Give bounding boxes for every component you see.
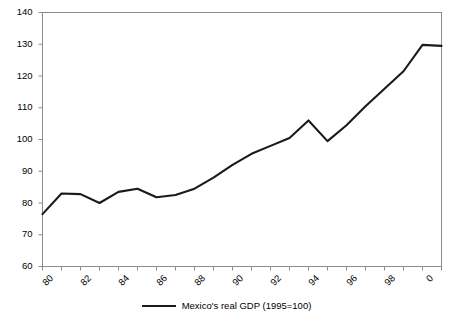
y-axis-tick-label: 140: [7, 7, 33, 17]
chart-container: 60708090100110120130140 8082848688909294…: [0, 0, 453, 330]
y-axis-tick-label: 100: [7, 134, 33, 144]
series-line: [43, 45, 442, 214]
chart-legend: Mexico's real GDP (1995=100): [0, 300, 453, 311]
y-axis-tick-label: 130: [7, 39, 33, 49]
y-axis-tick-label: 90: [7, 166, 33, 176]
legend-entry-label: Mexico's real GDP (1995=100): [182, 300, 312, 311]
plot-frame: [43, 13, 442, 267]
y-axis-tick-label: 120: [7, 71, 33, 81]
y-axis-tick-label: 70: [7, 229, 33, 239]
y-axis-tick-label: 60: [7, 261, 33, 271]
plot-border: [43, 13, 442, 267]
y-axis-tick-label: 110: [7, 102, 33, 112]
y-axis-tick-label: 80: [7, 198, 33, 208]
axis-ticks: [39, 13, 442, 271]
data-series-lines: [43, 45, 442, 214]
legend-line-swatch: [142, 305, 176, 307]
